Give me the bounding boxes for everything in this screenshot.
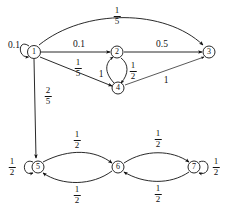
edge-6-to-7 <box>124 153 189 163</box>
edge-label-1-to-4: 1 5 <box>75 58 82 78</box>
edge-label-6-to-5-lower: 1 2 <box>74 185 81 205</box>
numerator: 1 <box>130 61 137 70</box>
edge-label-6-to-7-upper: 1 2 <box>155 129 162 149</box>
edge-label-1-to-3-arc: 1 5 <box>114 6 121 26</box>
edge-label-1-to-5: 2 5 <box>45 86 52 106</box>
node-7-label: 7 <box>192 162 196 171</box>
denominator: 2 <box>155 140 162 149</box>
numerator: 1 <box>9 157 16 166</box>
node-1-label: 1 <box>32 47 36 56</box>
numerator: 1 <box>74 130 81 139</box>
denominator: 2 <box>74 196 81 205</box>
edge-4-to-2 <box>107 57 114 83</box>
graph-canvas: 1 2 3 4 5 6 7 <box>0 0 226 214</box>
edge-6-to-5 <box>43 171 112 183</box>
edge-label-1-to-2: 0.1 <box>73 39 85 49</box>
edge-2-to-4 <box>121 58 127 83</box>
denominator: 2 <box>74 141 81 150</box>
numerator: 1 <box>155 129 162 138</box>
numerator: 1 <box>213 157 220 166</box>
edge-1-to-3 <box>39 18 203 45</box>
state-diagram-figure: 1 2 3 4 5 6 7 0.1 1 5 0.1 0.5 1 5 1 1 2 … <box>0 0 226 214</box>
node-4-label: 4 <box>116 83 120 92</box>
numerator: 1 <box>74 185 81 194</box>
numerator: 2 <box>45 86 52 95</box>
denominator: 2 <box>130 72 137 81</box>
edge-label-7-to-6-lower: 1 2 <box>155 184 162 204</box>
edge-5-to-6 <box>43 152 112 163</box>
node-3-label: 3 <box>207 47 211 56</box>
edge-label-5-to-6-upper: 1 2 <box>74 130 81 150</box>
numerator: 1 <box>75 58 82 67</box>
edge-label-4-to-3: 1 <box>164 75 169 85</box>
node-5-label: 5 <box>36 162 40 171</box>
edge-label-7-to-7-selfloop: 1 2 <box>213 157 220 177</box>
denominator: 5 <box>75 69 82 78</box>
denominator: 5 <box>114 17 121 26</box>
edge-label-1-to-1-selfloop: 0.1 <box>8 40 20 50</box>
denominator: 2 <box>213 168 220 177</box>
edge-7-to-6 <box>124 172 189 181</box>
edge-label-2-to-4: 1 2 <box>130 61 137 81</box>
numerator: 1 <box>114 6 121 15</box>
edge-label-2-to-3: 0.5 <box>156 39 168 49</box>
denominator: 2 <box>155 195 162 204</box>
node-6-label: 6 <box>116 162 120 171</box>
numerator: 1 <box>155 184 162 193</box>
edge-1-to-5 <box>34 59 36 158</box>
edge-label-4-to-2: 1 <box>99 69 104 79</box>
node-2-label: 2 <box>115 47 119 56</box>
denominator: 5 <box>45 97 52 106</box>
edge-label-5-to-5-selfloop: 1 2 <box>9 157 16 177</box>
denominator: 2 <box>9 168 16 177</box>
